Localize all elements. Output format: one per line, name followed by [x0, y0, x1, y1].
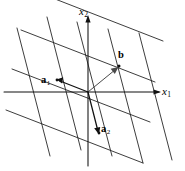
vector-b — [88, 65, 121, 93]
vector-a1-endpoint-dot — [56, 79, 59, 82]
lattice-line-a1-3 — [6, 110, 143, 163]
lattice-lines-family-a1 — [6, 0, 163, 163]
vector-a2-shaft — [88, 92, 97, 129]
axis-label-x1-sub: 1 — [167, 90, 171, 99]
lattice-line-a2-4 — [108, 29, 143, 163]
vector-b-endpoint-dot — [118, 65, 121, 68]
lattice-line-a2-3 — [77, 22, 112, 156]
vector-a2 — [88, 92, 100, 135]
lattice-lines-family-a2 — [17, 17, 172, 163]
axis-label-x2: x2 — [79, 6, 88, 18]
axis-label-x2-sub: 2 — [84, 10, 88, 19]
vector-label-b-main: b — [118, 49, 124, 60]
vector-label-b: b — [118, 50, 124, 62]
axis-label-x1: x1 — [162, 86, 171, 98]
vector-label-a2-sub: 2 — [106, 128, 110, 136]
vector-label-a1-sub: 1 — [46, 79, 50, 87]
vector-a1-shaft — [60, 81, 88, 92]
lattice-line-a2-2 — [47, 17, 81, 150]
axis-x1-arrowhead — [154, 89, 162, 94]
lattice-line-a1-2 — [12, 69, 150, 122]
vector-label-a2: a2 — [101, 124, 110, 136]
vector-a2-endpoint-dot — [98, 132, 101, 135]
vector-label-b-sub — [124, 54, 125, 62]
lattice-figure: x2 x1 a1 a2 b — [0, 0, 185, 171]
lattice-figure-canvas — [0, 0, 185, 171]
vector-label-a1: a1 — [41, 75, 50, 87]
vector-a1 — [56, 77, 88, 92]
